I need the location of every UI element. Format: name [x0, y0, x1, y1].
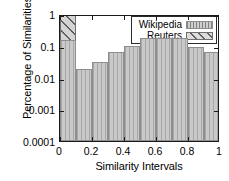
chart-figure: Percentage of Similarities 10.10.010.001… [0, 0, 229, 181]
x-tick-mark-0 [60, 16, 61, 20]
bar-wikipedia-0.7-0.8 [172, 38, 188, 141]
y-tick-mark-2 [214, 80, 218, 81]
bar-wikipedia-0.6-0.7 [156, 38, 172, 141]
y-tick-mark-3 [214, 111, 218, 112]
x-tick-mark-1 [92, 137, 93, 141]
bar-wikipedia-0-0.1 [60, 40, 76, 141]
y-tick-label-4: 0.0001 [23, 136, 55, 148]
bar-wikipedia-0.5-0.6 [140, 38, 156, 141]
y-tick-mark-3 [60, 111, 64, 112]
y-tick-mark-2 [60, 80, 64, 81]
legend-label-wikipedia: Wikipedia [139, 19, 182, 30]
x-tick-mark-1 [92, 16, 93, 20]
legend-swatch-wikipedia [186, 21, 213, 29]
bar-wikipedia-0.3-0.4 [108, 52, 124, 141]
y-tick-label-1: 0.1 [40, 41, 55, 53]
x-tick-mark-2 [124, 16, 125, 20]
y-tick-label-2: 0.01 [35, 73, 55, 85]
x-tick-label-1: 0.2 [84, 145, 99, 157]
bar-wikipedia-0.2-0.3 [92, 62, 108, 141]
x-tick-label-3: 0.6 [148, 145, 163, 157]
x-tick-mark-0 [60, 137, 61, 141]
x-tick-label-4: 0.8 [180, 145, 195, 157]
y-tick-mark-0 [214, 16, 218, 17]
y-tick-mark-1 [214, 48, 218, 49]
bar-wikipedia-0.1-0.2 [76, 69, 92, 141]
x-tick-mark-4 [188, 137, 189, 141]
y-tick-label-0: 1 [49, 9, 55, 21]
y-axis-ticks: 10.10.010.0010.0001 [0, 0, 55, 181]
x-tick-label-0: 0 [56, 145, 62, 157]
bar-wikipedia-0.9-1.0 [204, 52, 219, 141]
bar-wikipedia-0.4-0.5 [124, 46, 140, 141]
y-tick-mark-1 [60, 48, 64, 49]
x-tick-mark-4 [188, 16, 189, 20]
x-axis-title: Similarity Intervals [59, 160, 219, 172]
legend-item-wikipedia: Wikipedia [134, 19, 213, 30]
x-tick-mark-3 [156, 16, 157, 20]
x-tick-mark-3 [156, 137, 157, 141]
x-tick-label-2: 0.4 [116, 145, 131, 157]
x-tick-mark-2 [124, 137, 125, 141]
y-tick-label-3: 0.001 [29, 104, 55, 116]
legend-swatch-reuters [186, 32, 213, 40]
x-tick-label-5: 1 [216, 145, 222, 157]
bar-wikipedia-0.8-0.9 [188, 47, 204, 141]
